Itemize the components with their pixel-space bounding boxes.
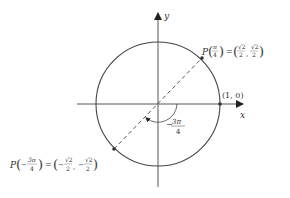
- svg-text:=: =: [226, 47, 233, 56]
- svg-text:=: =: [45, 160, 52, 169]
- svg-text:4: 4: [213, 51, 217, 58]
- svg-text:2: 2: [252, 51, 256, 58]
- svg-text:3π: 3π: [28, 156, 37, 163]
- y-axis-label: y: [163, 11, 170, 21]
- svg-text:−: −: [21, 161, 27, 169]
- svg-text:π: π: [212, 43, 218, 50]
- svg-text:2: 2: [239, 51, 243, 58]
- svg-text:−: −: [58, 161, 64, 169]
- svg-text:2: 2: [66, 165, 70, 172]
- svg-text:3π: 3π: [172, 118, 181, 126]
- svg-text:√2: √2: [85, 156, 93, 163]
- svg-text:√2: √2: [251, 43, 259, 50]
- svg-text:√2: √2: [238, 43, 246, 50]
- svg-text:): ): [219, 44, 224, 59]
- one-zero-label: (1, 0): [222, 91, 244, 100]
- svg-text:−: −: [78, 161, 84, 169]
- svg-text:,: ,: [246, 50, 248, 58]
- point-one-zero: [218, 102, 222, 106]
- svg-text:4: 4: [176, 128, 181, 136]
- svg-text:): ): [93, 157, 98, 172]
- svg-text:2: 2: [86, 165, 90, 172]
- svg-text:√2: √2: [65, 156, 73, 163]
- p-pi-4-label: P ( π 4 ) = ( √2 2 , √2 2 ): [201, 43, 264, 59]
- angle-label: − 3π 4: [166, 118, 185, 136]
- svg-text:,: ,: [73, 163, 75, 171]
- x-axis-label: x: [240, 110, 245, 120]
- svg-text:): ): [259, 44, 264, 59]
- svg-text:): ): [38, 157, 43, 172]
- point-p-neg-3pi-4: [112, 147, 116, 151]
- p-neg-3pi-4-label: P ( − 3π 4 ) = ( − √2 2 , − √2 2 ): [9, 156, 98, 172]
- unit-circle-diagram: x y (1, 0) − 3π 4 P ( π 4 ) = ( √2 2 , √…: [0, 0, 290, 198]
- svg-text:4: 4: [30, 165, 34, 172]
